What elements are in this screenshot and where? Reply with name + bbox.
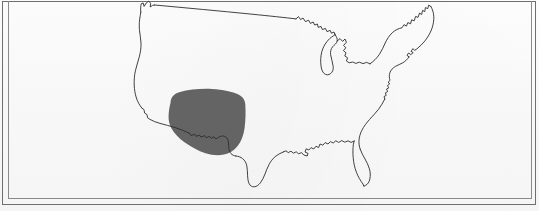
- coastline-mid-atlantic: [384, 57, 409, 99]
- border-great-lakes-north: [296, 17, 335, 35]
- great-lakes-michigan: [321, 35, 338, 75]
- coastline-florida: [353, 141, 370, 186]
- coastline-gulf: [283, 141, 354, 156]
- coastline-texas-gulf: [236, 152, 283, 187]
- border-us-canada-west: [155, 5, 296, 19]
- shaded-region-southwest: [169, 89, 246, 155]
- coastline-california-north: [134, 12, 142, 108]
- coastline-northeast: [370, 5, 431, 64]
- map-figure: [0, 0, 539, 211]
- great-lakes-huron-erie: [337, 39, 370, 64]
- us-map-drawing: [0, 0, 539, 211]
- coastline-pacific-northwest: [141, 1, 155, 12]
- coastline-southeast: [359, 99, 385, 149]
